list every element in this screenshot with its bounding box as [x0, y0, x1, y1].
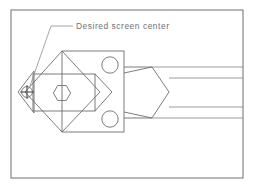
- technical-drawing-canvas: Desired screen center: [0, 0, 258, 190]
- connector-upper: [124, 67, 152, 73]
- annotation-label: Desired screen center: [76, 21, 169, 31]
- mounting-hole-top: [102, 57, 118, 73]
- drawing-border: [11, 10, 243, 178]
- rotated-square-diamond: [25, 51, 100, 132]
- connector-lower: [124, 112, 152, 118]
- pentagon-collar: [124, 67, 169, 118]
- mounting-hole-bottom: [102, 111, 118, 127]
- technical-drawing-svg: Desired screen center: [0, 0, 258, 190]
- overlay-rectangle: [33, 74, 95, 111]
- v-notch-arrow: [95, 74, 112, 111]
- main-square-body: [62, 51, 124, 132]
